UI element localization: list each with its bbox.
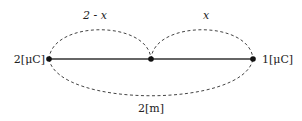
- arc-bottom: [49, 59, 253, 96]
- midpoint: [148, 56, 154, 62]
- label-right-segment: x: [203, 9, 210, 22]
- charge-diagram: 2 - x x 2[μC] 1[μC] 2[m]: [0, 0, 302, 121]
- label-left-segment: 2 - x: [82, 9, 108, 22]
- label-right-charge: 1[μC]: [262, 53, 293, 66]
- charge-point-left: [46, 56, 52, 62]
- arc-left-top: [49, 30, 151, 59]
- arc-right-top: [151, 30, 253, 59]
- label-left-charge: 2[μC]: [14, 53, 45, 66]
- charge-point-right: [250, 56, 256, 62]
- label-total-distance: 2[m]: [138, 102, 164, 115]
